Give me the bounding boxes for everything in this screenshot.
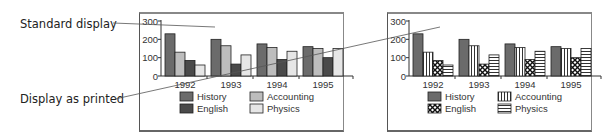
x-tick-label: 1995 [312,79,333,90]
legend-label-english: English [197,103,228,114]
bar-accounting-1994 [515,48,525,76]
chart-display-as-printed: 01002003001992199319941995HistoryEnglish… [390,16,601,115]
bar-physics-1992 [443,65,453,76]
bar-physics-1995 [333,49,343,77]
x-tick-label: 1993 [468,79,489,90]
bar-history-1994 [257,44,267,76]
x-tick-label: 1993 [220,79,241,90]
x-tick-label: 1992 [174,79,195,90]
legend-label-english: English [445,103,476,114]
bar-accounting-1992 [423,52,433,76]
legend-swatch-accounting [250,92,263,101]
bar-english-1993 [231,64,241,76]
bar-history-1993 [211,39,221,76]
y-tick-label: 0 [401,71,406,82]
bar-accounting-1992 [175,52,185,76]
bar-english-1994 [525,60,535,77]
legend-swatch-accounting [498,92,511,101]
bar-english-1995 [323,58,333,76]
bar-english-1992 [185,60,195,76]
legend-swatch-english [428,104,441,113]
legend-swatch-history [180,92,193,101]
y-tick-label: 100 [142,52,158,63]
bar-history-1994 [505,44,515,76]
bar-physics-1992 [195,65,205,76]
legend-swatch-physics [250,104,263,113]
legend-label-history: History [445,91,475,102]
legend-swatch-history [428,92,441,101]
bar-accounting-1994 [267,48,277,76]
bar-physics-1994 [287,51,297,76]
bar-english-1993 [479,64,489,76]
bar-history-1993 [459,39,469,76]
legend-label-physics: Physics [267,103,300,114]
bar-english-1992 [433,60,443,76]
bar-accounting-1993 [221,46,231,76]
charts-canvas: 01002003001992199319941995HistoryEnglish… [0,0,605,140]
bar-history-1995 [303,47,313,76]
y-tick-label: 100 [390,52,406,63]
bar-accounting-1995 [561,49,571,77]
bar-history-1992 [165,34,175,76]
legend-label-history: History [197,91,227,102]
x-tick-label: 1994 [514,79,535,90]
legend-label-accounting: Accounting [267,91,314,102]
y-tick-label: 200 [142,34,158,45]
legend-label-accounting: Accounting [515,91,562,102]
y-tick-label: 200 [390,34,406,45]
bar-accounting-1993 [469,46,479,76]
legend-swatch-english [180,104,193,113]
bar-physics-1993 [241,55,251,76]
bar-english-1995 [571,58,581,76]
bar-physics-1994 [535,51,545,76]
bar-history-1995 [551,47,561,76]
bar-history-1992 [413,34,423,76]
y-tick-label: 0 [153,71,158,82]
x-tick-label: 1994 [266,79,287,90]
x-tick-label: 1995 [560,79,581,90]
legend-swatch-physics [498,104,511,113]
y-tick-label: 300 [390,16,406,27]
bar-physics-1993 [489,55,499,76]
legend-label-physics: Physics [515,103,548,114]
chart-standard-display: 01002003001992199319941995HistoryEnglish… [142,16,353,115]
bar-accounting-1995 [313,49,323,77]
bar-physics-1995 [581,49,591,77]
x-tick-label: 1992 [422,79,443,90]
